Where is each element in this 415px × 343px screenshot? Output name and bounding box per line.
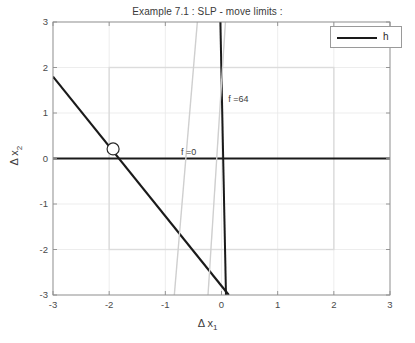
y-tick-label: 2 [24, 62, 48, 73]
x-tick-label: 3 [378, 299, 402, 310]
y-axis-label-subscript: 2 [15, 146, 24, 150]
legend[interactable]: h [330, 26, 402, 48]
x-tick-label: -3 [41, 299, 65, 310]
x-tick-label: 2 [322, 299, 346, 310]
y-axis-label: Δ x2 [8, 126, 23, 186]
x-tick-label: 1 [266, 299, 290, 310]
design-point [107, 143, 119, 155]
y-tick-label: 3 [24, 16, 48, 27]
legend-label-h: h [383, 31, 389, 42]
y-tick-label: -1 [24, 198, 48, 209]
y-tick-label: 1 [24, 107, 48, 118]
plot-svg [0, 0, 415, 343]
x-tick-label: -2 [97, 299, 121, 310]
y-tick-label: 0 [24, 153, 48, 164]
x-axis-label-subscript: 1 [213, 323, 217, 332]
f-zero-label: f =0 [181, 147, 196, 157]
legend-line-sample [337, 37, 377, 39]
x-axis-label: Δ x1 [0, 317, 415, 332]
y-tick-label: -3 [24, 289, 48, 300]
x-tick-label: 0 [210, 299, 234, 310]
x-tick-label: -1 [153, 299, 177, 310]
y-tick-label: -2 [24, 244, 48, 255]
figure-canvas: Example 7.1 : SLP - move limits : Δ x1 Δ… [0, 0, 415, 343]
f-64-label: f =64 [228, 94, 248, 104]
x-axis-label-base: Δ x [198, 317, 213, 329]
y-axis-label-base: Δ x [8, 150, 20, 165]
